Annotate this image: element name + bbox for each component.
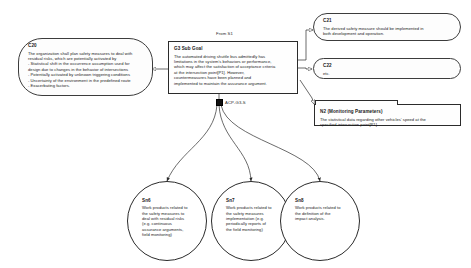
edge-strategy-to-sn7 bbox=[219, 105, 251, 181]
node-sn6-content: Sn6 Work products related to the safety … bbox=[142, 198, 193, 238]
node-c20[interactable]: C20 The organization shall plan safety m… bbox=[18, 38, 153, 96]
node-c22-text: etc. bbox=[323, 71, 452, 76]
strategy-marker[interactable] bbox=[216, 99, 223, 106]
edge-strategy-to-sn8 bbox=[221, 105, 320, 181]
assurance-case-diagram: From S1 C20 The organization shall plan … bbox=[0, 0, 471, 268]
node-c20-text: The organization shall plan safety measu… bbox=[28, 51, 144, 89]
node-sn7[interactable]: Sn7 Work products related to the safety … bbox=[211, 181, 291, 261]
node-sn7-title: Sn7 bbox=[226, 198, 277, 204]
node-c22[interactable]: C22 etc. bbox=[313, 58, 461, 79]
node-sn7-text: Work products related to the safety meas… bbox=[226, 205, 277, 232]
node-sn6-title: Sn6 bbox=[142, 198, 193, 204]
node-c21-text: The derived safety measure should be imp… bbox=[323, 26, 452, 37]
node-sn7-content: Sn7 Work products related to the safety … bbox=[226, 198, 277, 233]
edge-strategy-to-n2 bbox=[300, 80, 314, 104]
node-n2-monitoring-parameters[interactable]: N2 (Monitoring Parameters) The statistic… bbox=[314, 104, 461, 126]
note-tab bbox=[315, 100, 398, 106]
node-c21-title: C21 bbox=[323, 18, 452, 24]
node-sn8-title: Sn8 bbox=[295, 198, 346, 204]
node-g3-text: The automated driving shuttle bus admitt… bbox=[174, 54, 292, 86]
edge-g3-to-c21 bbox=[298, 30, 313, 60]
node-c22-title: C22 bbox=[323, 63, 452, 69]
node-sn8-content: Sn8 Work products related to the definit… bbox=[295, 198, 346, 222]
strategy-label: ACP-G3-S bbox=[225, 100, 246, 105]
node-sn8-text: Work products related to the definition … bbox=[295, 205, 346, 221]
node-c21[interactable]: C21 The derived safety measure should be… bbox=[313, 13, 461, 41]
node-sn6-text: Work products related to the safety meas… bbox=[142, 205, 193, 237]
node-n2-text: The statistical data regarding other veh… bbox=[320, 117, 455, 128]
node-n2-title: N2 (Monitoring Parameters) bbox=[320, 109, 455, 115]
node-sn8[interactable]: Sn8 Work products related to the definit… bbox=[280, 181, 360, 261]
node-g3-sub-goal[interactable]: G3 Sub Goal The automated driving shuttl… bbox=[168, 41, 298, 94]
node-c20-title: C20 bbox=[28, 43, 144, 49]
edge-strategy-to-sn6 bbox=[167, 105, 217, 181]
node-sn6[interactable]: Sn6 Work products related to the safety … bbox=[127, 181, 207, 261]
edge-g3-to-c22 bbox=[298, 68, 312, 69]
from-s1-label: From S1 bbox=[216, 31, 233, 36]
node-g3-title: G3 Sub Goal bbox=[174, 46, 292, 52]
